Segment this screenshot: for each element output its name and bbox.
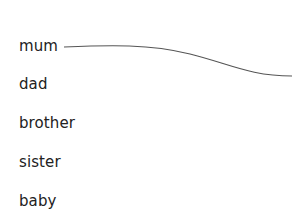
matching-line bbox=[0, 0, 292, 213]
